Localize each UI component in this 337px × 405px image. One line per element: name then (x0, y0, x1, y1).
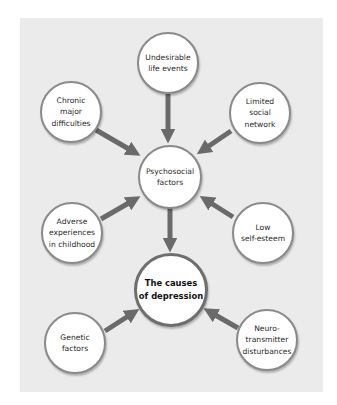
node-limited-social-network: Limited social network (229, 82, 291, 144)
node-genetic-factors: Genetic factors (44, 312, 106, 374)
node-causes-of-depression: The causes of depression (134, 253, 208, 327)
arrow-low-to-psychosocial (206, 200, 233, 217)
arrow-genetic-to-causes (105, 313, 133, 331)
node-label: Psychosocial factors (146, 166, 194, 189)
arrow-neuro-to-causes (210, 312, 238, 328)
node-label: Chronic major difficulties (51, 95, 90, 129)
node-neurotransmitter-disturbances: Neuro- transmitter disturbances (236, 309, 298, 371)
node-chronic-major-difficulties: Chronic major difficulties (40, 81, 102, 143)
node-label: Limited social network (245, 96, 276, 130)
node-adverse-experiences: Adverse experiences in childhood (41, 202, 103, 264)
node-label: The causes of depression (139, 277, 203, 302)
node-label: Undesirable life events (145, 52, 190, 75)
arrow-limited-to-psychosocial (203, 131, 231, 150)
node-low-self-esteem: Low self-esteem (232, 202, 294, 264)
node-undesirable-life-events: Undesirable life events (137, 32, 199, 94)
node-label: Adverse experiences in childhood (49, 216, 95, 250)
arrow-chronic-to-psychosocial (96, 130, 134, 152)
node-psychosocial-factors: Psychosocial factors (138, 145, 202, 209)
arrow-adverse-to-psychosocial (101, 200, 134, 219)
node-label: Genetic factors (60, 332, 89, 355)
node-label: Neuro- transmitter disturbances (243, 323, 292, 357)
node-label: Low self-esteem (241, 222, 285, 245)
